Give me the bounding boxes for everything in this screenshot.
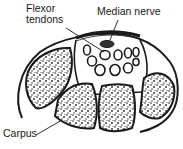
flexor-tendons <box>84 45 140 76</box>
label-median-nerve: Median nerve <box>97 6 161 17</box>
carpal-bones <box>26 48 174 131</box>
label-carpus: Carpus <box>3 128 37 139</box>
carpus-leader <box>36 120 62 135</box>
nerve-leader <box>110 20 118 40</box>
label-flexor-line2: tendons <box>26 14 63 25</box>
median-nerve <box>100 41 114 48</box>
